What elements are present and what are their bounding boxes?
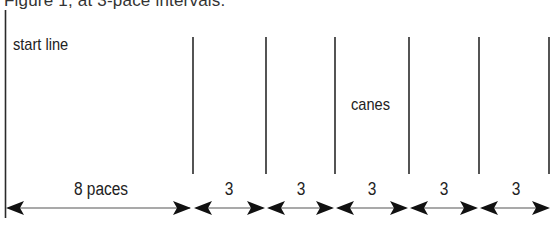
interval-label-5: 3 — [512, 179, 521, 200]
arrow-interval-5 — [480, 201, 550, 215]
arrow-8-paces — [6, 201, 191, 215]
start-line-label: start line — [13, 35, 68, 55]
arrow-interval-3 — [336, 201, 408, 215]
interval-label-2: 3 — [297, 179, 306, 200]
arrow-interval-1 — [194, 201, 265, 215]
interval-label-8-paces: 8 paces — [74, 179, 128, 200]
canes-label: canes — [351, 95, 390, 115]
interval-label-1: 3 — [225, 179, 234, 200]
arrow-interval-4 — [410, 201, 478, 215]
arrow-interval-2 — [267, 201, 334, 215]
interval-label-4: 3 — [440, 179, 449, 200]
interval-label-3: 3 — [368, 179, 377, 200]
dimension-arrows — [6, 201, 550, 215]
